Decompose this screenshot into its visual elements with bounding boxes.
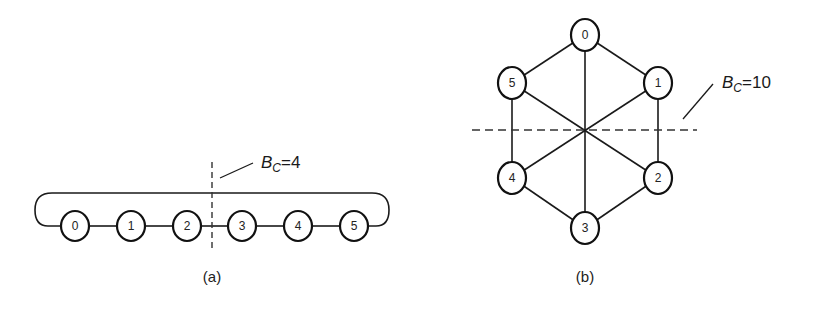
svg-text:1: 1: [128, 219, 135, 233]
node-1: 1: [117, 211, 145, 241]
bisection-label-a: BC=4: [261, 153, 300, 175]
svg-text:4: 4: [295, 219, 302, 233]
figure-canvas: 0 1 2 3 4 5 BC=4 (a): [0, 0, 824, 314]
bisection-label-b: BC=10: [722, 73, 771, 95]
node-0: 0: [571, 19, 599, 51]
caption-a: (a): [203, 268, 221, 285]
node-2: 2: [173, 211, 201, 241]
svg-text:3: 3: [582, 221, 589, 235]
caption-b: (b): [576, 268, 594, 285]
node-4: 4: [284, 211, 312, 241]
node-3: 3: [571, 212, 599, 244]
node-3: 3: [228, 211, 256, 241]
node-4: 4: [498, 162, 526, 194]
svg-text:3: 3: [239, 219, 246, 233]
svg-text:4: 4: [509, 171, 516, 185]
node-1: 1: [644, 67, 672, 99]
svg-text:5: 5: [351, 219, 358, 233]
node-2: 2: [644, 162, 672, 194]
node-5: 5: [340, 211, 368, 241]
bisection-leader-line: [683, 84, 713, 119]
svg-text:1: 1: [655, 76, 662, 90]
panel-a: 0 1 2 3 4 5 BC=4 (a): [35, 153, 389, 285]
svg-text:0: 0: [582, 28, 589, 42]
svg-text:5: 5: [509, 76, 516, 90]
bisection-leader-line: [220, 163, 253, 178]
svg-text:2: 2: [184, 219, 191, 233]
svg-text:0: 0: [72, 219, 79, 233]
node-5: 5: [498, 67, 526, 99]
svg-text:2: 2: [655, 171, 662, 185]
panel-b: 0 1 2 3 4 5 BC=10 (b): [472, 19, 771, 285]
node-0: 0: [61, 211, 89, 241]
